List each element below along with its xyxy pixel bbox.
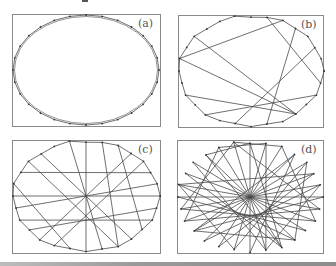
tour-edge	[206, 155, 282, 248]
vertex-dot	[12, 195, 14, 197]
panel-b: (b)	[178, 15, 325, 127]
panel-d: (d)	[177, 141, 324, 254]
vertex-dot	[156, 57, 158, 59]
vertex-dot	[117, 119, 119, 121]
vertex-dot	[265, 249, 267, 251]
panel-c: (c)	[12, 140, 161, 253]
vertex-dot	[186, 47, 188, 49]
vertex-dot	[150, 172, 152, 174]
vertex-dot	[117, 246, 119, 248]
vertex-dot	[205, 114, 207, 116]
tour-edge	[180, 20, 283, 58]
reference-ellipse	[15, 17, 158, 124]
panel-a: (a)	[12, 14, 160, 126]
tour-cycle	[13, 15, 159, 125]
vertex-dot	[19, 93, 21, 95]
vertex-dot	[151, 219, 153, 221]
vertex-dot	[313, 173, 315, 175]
tour-edge	[29, 208, 156, 230]
vertex-dot	[69, 248, 71, 250]
vertex-dot	[40, 112, 42, 114]
vertex-dot	[281, 146, 283, 148]
vertex-dot	[131, 238, 133, 240]
vertex-dot	[142, 103, 144, 105]
vertex-dot	[181, 82, 183, 84]
vertex-dot	[218, 246, 220, 248]
vertex-dot	[141, 229, 143, 231]
vertex-dot	[314, 47, 316, 49]
figure-four-panels: (a) (b) (c) (d)	[0, 0, 336, 266]
vertex-dot	[85, 141, 87, 143]
vertex-dot	[294, 154, 296, 156]
vertex-dot	[85, 251, 87, 253]
vertex-dot	[315, 220, 317, 222]
tour-edge	[54, 161, 143, 245]
vertex-dot	[143, 160, 145, 162]
vertex-dot	[193, 230, 195, 232]
vertex-dot	[12, 69, 14, 71]
vertex-dot	[130, 153, 132, 155]
vertex-dot	[29, 229, 31, 231]
vertex-dot	[281, 247, 283, 249]
vertex-dot	[316, 94, 318, 96]
vertex-dot	[266, 17, 268, 19]
panel-label: (b)	[301, 18, 317, 31]
vertex-dot	[85, 124, 87, 126]
vertex-dot	[19, 45, 21, 47]
vertex-dot	[14, 57, 16, 59]
vertex-dot	[15, 207, 17, 209]
tour-edge	[267, 29, 296, 125]
vertex-dot	[69, 140, 71, 142]
vertex-dot	[69, 16, 71, 18]
vertex-dot	[249, 142, 251, 144]
vertex-dot	[19, 219, 21, 221]
vertex-dot	[205, 154, 207, 156]
tour-edge	[194, 155, 294, 231]
vertex-dot	[117, 145, 119, 147]
vertex-dot	[320, 82, 322, 84]
tour-edge	[205, 95, 316, 115]
vertex-dot	[250, 16, 252, 18]
vertex-dot	[156, 183, 158, 185]
vertex-dot	[193, 35, 195, 37]
vertex-dot	[159, 195, 161, 197]
vertex-dot	[53, 20, 55, 22]
vertex-dot	[85, 14, 87, 16]
vertex-dot	[233, 141, 235, 143]
vertex-dot	[184, 220, 186, 222]
vertex-dot	[151, 93, 153, 95]
vertex-dot	[178, 70, 180, 72]
panel-label: (a)	[138, 17, 153, 30]
vertex-dot	[306, 104, 308, 106]
vertex-dot	[282, 20, 284, 22]
vertex-dot	[185, 94, 187, 96]
vertex-dot	[323, 70, 325, 72]
vertex-dot	[250, 126, 252, 128]
tour-edge	[235, 48, 315, 124]
vertex-dot	[101, 248, 103, 250]
vertex-dot	[206, 28, 208, 30]
vertex-dot	[28, 160, 30, 162]
vertex-dot	[28, 103, 30, 105]
panel-label: (c)	[138, 143, 153, 156]
vertex-dot	[320, 58, 322, 60]
vertex-dot	[319, 208, 321, 210]
vertex-dot	[295, 113, 297, 115]
tour-cycle	[179, 16, 324, 126]
vertex-dot	[20, 172, 22, 174]
vertex-dot	[265, 143, 267, 145]
tour-edge	[193, 162, 266, 250]
vertex-dot	[28, 35, 30, 37]
vertex-dot	[185, 173, 187, 175]
vertex-dot	[249, 252, 251, 254]
vertex-dot	[219, 21, 221, 23]
tour-edge	[102, 142, 118, 246]
vertex-dot	[233, 249, 235, 251]
vertex-dot	[319, 184, 321, 186]
vertex-dot	[117, 20, 119, 22]
vertex-dot	[322, 196, 324, 198]
vertex-dot	[294, 239, 296, 241]
vertex-dot	[69, 123, 71, 125]
vertex-dot	[14, 81, 16, 83]
vertex-dot	[192, 161, 194, 163]
